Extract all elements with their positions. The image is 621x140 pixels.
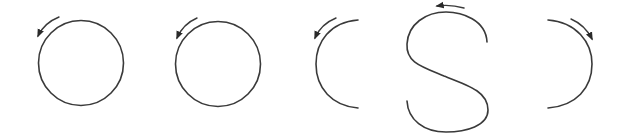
left-arc-shape <box>315 18 358 108</box>
circle-1-outline <box>39 21 124 106</box>
left-arc-outline <box>316 20 358 108</box>
s-curve-outline <box>407 12 488 132</box>
leftward-arrow-icon <box>437 5 464 8</box>
s-curve-shape <box>407 5 488 132</box>
circle-1-shape <box>38 17 124 106</box>
right-arc-shape <box>548 19 592 108</box>
stroke-direction-diagram <box>0 0 621 140</box>
circle-2-outline <box>176 22 261 107</box>
counter-clockwise-arrow-icon <box>38 17 59 36</box>
circle-2-shape <box>176 18 261 107</box>
right-arc-outline <box>548 20 592 108</box>
